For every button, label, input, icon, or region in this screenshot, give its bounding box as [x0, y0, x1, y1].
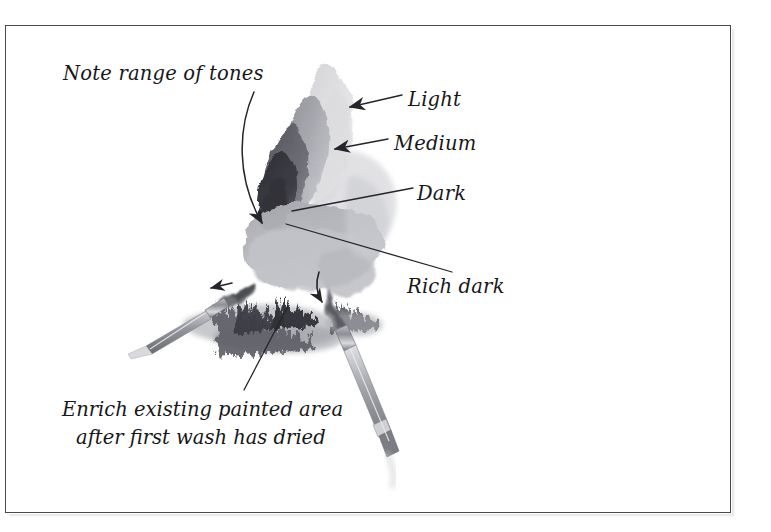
annotation-dark: Dark [417, 182, 466, 205]
annotation-rich-dark: Rich dark [407, 275, 505, 298]
caption-block: Enrich existing painted area after first… [62, 396, 343, 452]
right-brush-handle-highlight [350, 348, 389, 441]
light-arrow [350, 95, 402, 107]
wash-shape [245, 64, 397, 297]
annotation-light: Light [408, 88, 461, 111]
left-brush-arrow [211, 283, 232, 288]
caption-line-1: Enrich existing painted area [62, 398, 343, 421]
annotation-note-range-of-tones: Note range of tones [63, 62, 264, 85]
right-brush-shadow [386, 452, 394, 488]
illustration-page: Note range of tones Light Medium Dark Ri… [0, 0, 771, 532]
caption-line-2: after first wash has dried [62, 424, 343, 452]
annotation-medium: Medium [394, 132, 476, 155]
